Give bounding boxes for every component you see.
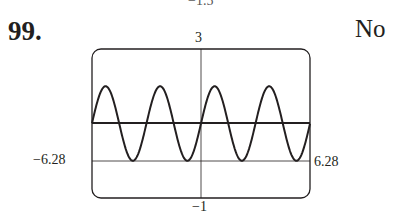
graph-window — [0, 0, 408, 213]
